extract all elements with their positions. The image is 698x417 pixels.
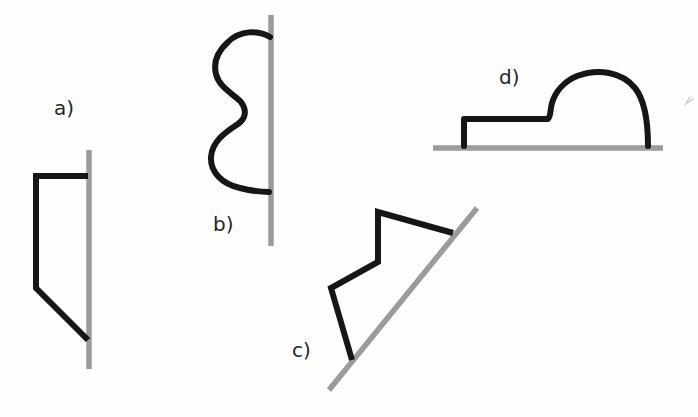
drop-outline-a: [36, 176, 88, 340]
figure-label-c: c): [292, 338, 311, 362]
incline-line-c: [329, 208, 477, 390]
diagram-canvas: a) b) c) d): [0, 0, 698, 417]
stray-mark: [685, 97, 693, 105]
figure-a: a): [36, 96, 89, 369]
drop-outline-b: [211, 32, 270, 192]
figure-d: d): [433, 65, 663, 148]
drop-outline-c: [331, 212, 453, 360]
figure-label-d: d): [499, 65, 520, 89]
drop-outline-d: [464, 72, 648, 146]
figure-label-a: a): [54, 96, 74, 120]
figure-b: b): [211, 15, 271, 246]
figure-label-b: b): [213, 212, 234, 236]
figure-c: c): [292, 208, 477, 390]
sketch-page: a) b) c) d): [0, 0, 698, 417]
